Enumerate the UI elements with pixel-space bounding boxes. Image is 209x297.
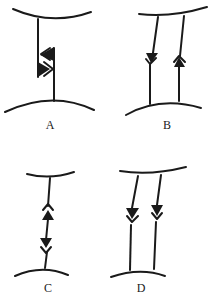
panel-c-line-mid [46,219,48,240]
panel-c-arrow-filled-up-icon [42,210,54,220]
panel-c-chevron-up-icon [43,204,53,210]
panel-c-bottom-surface [15,270,68,276]
panel-c-line [48,178,50,206]
panel-d-line-right [157,175,161,205]
panel-d-line-left-lower [130,225,131,270]
panel-b-top-surface [139,7,207,15]
panel-label-a: A [40,118,60,133]
panel-label-c: C [38,281,58,296]
panel-d-bottom-surface [111,272,165,277]
figure: A B C D [0,0,209,297]
panel-b [126,7,207,115]
panel-c [15,172,74,276]
panel-d-line-right-lower [154,222,156,269]
panel-c-line-lower [45,252,47,268]
panel-d-line-left [132,176,138,208]
panel-b-arrows [146,53,185,67]
panel-label-b: B [157,118,177,133]
panel-a-arrows [38,47,54,77]
panel-label-d: D [131,281,151,296]
panel-b-line-right [180,16,184,56]
panel-d-top-surface [120,167,186,173]
panel-a-bottom-surface [5,100,94,112]
panel-c-top-surface [27,172,74,177]
diagram-canvas [0,0,209,297]
panel-d [111,167,186,277]
panel-b-bottom-surface [126,103,201,115]
panel-a-top-surface [13,9,91,18]
